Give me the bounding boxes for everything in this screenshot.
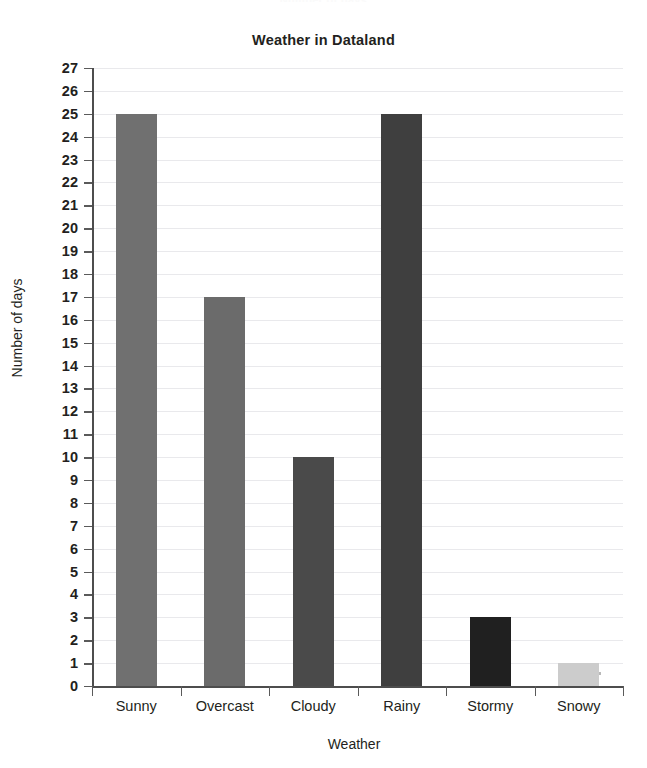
x-tick-mark [623,686,624,696]
gridline [92,480,623,481]
y-tick-label: 22 [44,175,78,190]
gridline [92,274,623,275]
gridline [92,68,623,69]
y-tick-mark [84,91,92,92]
gridline [92,594,623,595]
x-tick-mark [269,686,270,696]
gridline [92,457,623,458]
y-tick-mark [84,480,92,481]
y-tick-mark [84,503,92,504]
y-tick-label: 15 [44,336,78,351]
y-tick-mark [84,114,92,115]
y-tick-label: 18 [44,267,78,282]
bar-snowy[interactable] [558,663,599,686]
x-axis-title: Weather [85,736,623,752]
y-tick-label: 1 [44,656,78,671]
y-tick-label: 20 [44,221,78,236]
y-tick-label: 7 [44,519,78,534]
y-tick-mark [84,549,92,550]
gridline [92,526,623,527]
y-tick-label: 24 [44,130,78,145]
y-axis-line [92,68,94,686]
y-tick-mark [84,366,92,367]
gridline [92,617,623,618]
y-tick-label: 3 [44,610,78,625]
gridline [92,549,623,550]
gridline [92,91,623,92]
y-tick-label: 9 [44,473,78,488]
y-tick-label: 23 [44,153,78,168]
y-tick-mark [84,434,92,435]
y-tick-mark [84,663,92,664]
y-tick-label: 25 [44,107,78,122]
y-tick-label: 26 [44,84,78,99]
y-tick-label: 5 [44,565,78,580]
y-axis-title: Number of days [9,228,25,428]
bar-rainy[interactable] [381,114,422,686]
y-tick-mark [84,640,92,641]
y-tick-mark [84,182,92,183]
y-tick-mark [84,320,92,321]
gridline [92,640,623,641]
gridline [92,205,623,206]
y-tick-mark [84,388,92,389]
y-tick-mark [84,686,92,687]
gridline [92,297,623,298]
x-tick-label-sunny: Sunny [92,698,181,714]
gridline [92,137,623,138]
y-tick-label: 4 [44,587,78,602]
scan-speck [599,672,601,675]
gridline [92,411,623,412]
y-tick-mark [84,343,92,344]
y-tick-label: 0 [44,679,78,694]
y-tick-label: 12 [44,404,78,419]
gridline [92,572,623,573]
plot-area [92,68,623,686]
gridline [92,320,623,321]
y-tick-label: 2 [44,633,78,648]
y-tick-label: 6 [44,542,78,557]
bar-overcast[interactable] [204,297,245,686]
y-tick-mark [84,137,92,138]
y-tick-mark [84,160,92,161]
x-tick-label-overcast: Overcast [181,698,270,714]
gridline [92,228,623,229]
gridline [92,251,623,252]
y-tick-mark [84,572,92,573]
y-tick-mark [84,617,92,618]
y-tick-label: 19 [44,244,78,259]
y-tick-label: 8 [44,496,78,511]
y-tick-mark [84,251,92,252]
bar-cloudy[interactable] [293,457,334,686]
x-tick-mark [358,686,359,696]
y-tick-label: 14 [44,359,78,374]
y-tick-mark [84,228,92,229]
x-tick-label-cloudy: Cloudy [269,698,358,714]
y-tick-mark [84,526,92,527]
x-tick-mark [181,686,182,696]
gridline [92,160,623,161]
y-tick-mark [84,594,92,595]
clipped-top-text: Number of days [0,0,647,2]
y-tick-label: 16 [44,313,78,328]
gridline [92,366,623,367]
bar-stormy[interactable] [470,617,511,686]
y-tick-mark [84,205,92,206]
x-tick-mark [446,686,447,696]
gridline [92,182,623,183]
y-tick-mark [84,68,92,69]
bar-sunny[interactable] [116,114,157,686]
gridline [92,434,623,435]
y-tick-label: 17 [44,290,78,305]
y-tick-mark [84,457,92,458]
y-tick-mark [84,274,92,275]
chart-title: Weather in Dataland [0,32,647,48]
y-tick-label: 21 [44,198,78,213]
gridline [92,343,623,344]
y-tick-mark [84,297,92,298]
y-tick-mark [84,411,92,412]
bar-chart-figure: Number of days Weather in Dataland Numbe… [0,0,647,768]
gridline [92,503,623,504]
gridline [92,114,623,115]
x-tick-mark [535,686,536,696]
